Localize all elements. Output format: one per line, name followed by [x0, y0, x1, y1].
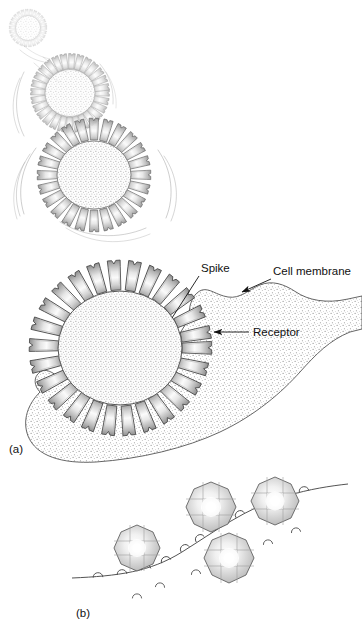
receptor-label: Receptor: [253, 326, 300, 338]
spike-label: Spike: [201, 262, 230, 274]
panel-a-label: (a): [9, 443, 23, 455]
virion-medium-core: [45, 70, 95, 117]
virion-large-core: [57, 141, 131, 209]
cell-membrane-label: Cell membrane: [273, 265, 351, 277]
virion-attached-core: [58, 291, 182, 405]
panel-b-label: (b): [76, 607, 90, 619]
capsid-left: [114, 525, 160, 571]
virion-small-core: [16, 16, 41, 41]
figure-root: Spike Cell membrane Receptor (a): [0, 0, 362, 626]
virus-attachment-figure: Spike Cell membrane Receptor (a): [0, 0, 362, 626]
